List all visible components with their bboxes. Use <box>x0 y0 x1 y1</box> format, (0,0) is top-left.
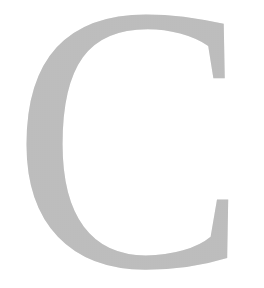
drop-cap-letter: C <box>12 0 248 288</box>
canvas: C C <box>0 0 264 288</box>
